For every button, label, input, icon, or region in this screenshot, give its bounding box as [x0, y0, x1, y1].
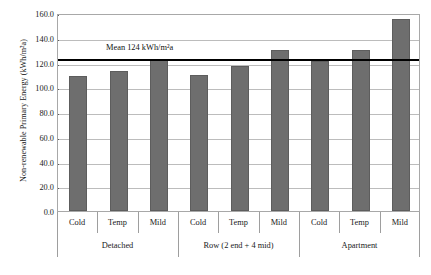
category-label: Mild [138, 212, 178, 234]
group-separator [178, 212, 179, 257]
category-label: Temp [339, 212, 379, 234]
bar [231, 66, 249, 211]
mean-line-label: Mean 124 kWh/m²a [106, 43, 173, 52]
y-axis-tick-labels: 0.020.040.060.080.0100.0120.0140.0160.0 [18, 14, 54, 212]
category-separator [380, 212, 381, 233]
y-tick-mark [57, 89, 59, 90]
category-label: Mild [380, 212, 420, 234]
category-label: Cold [178, 212, 218, 234]
category-axis: ColdTempMildColdTempMildColdTempMild Det… [57, 212, 420, 258]
category-label: Temp [218, 212, 258, 234]
plot-area: Mean 124 kWh/m²a [57, 14, 420, 212]
y-tick-mark-minor [57, 27, 58, 28]
bar [271, 50, 289, 211]
category-label: Cold [57, 212, 97, 234]
y-tick-label: 100.0 [18, 84, 54, 93]
bar [311, 61, 329, 211]
gridline [58, 40, 419, 41]
category-separator [138, 212, 139, 233]
y-tick-mark [57, 164, 59, 165]
y-tick-label: 140.0 [18, 34, 54, 43]
group-separator [419, 212, 420, 257]
group-label: Row (2 end + 4 mid) [178, 234, 299, 258]
category-label-row: ColdTempMildColdTempMildColdTempMild [57, 212, 420, 234]
bar-chart: Non-renewable Primary Energy (kWh/m²a) 0… [0, 0, 431, 275]
bar [69, 76, 87, 211]
mean-line [58, 59, 419, 61]
y-tick-mark-minor [57, 102, 58, 103]
group-separator [299, 212, 300, 257]
y-tick-mark-minor [57, 201, 58, 202]
category-label: Mild [259, 212, 299, 234]
bar [190, 75, 208, 211]
y-tick-mark [57, 15, 59, 16]
group-label-row: DetachedRow (2 end + 4 mid)Apartment [57, 234, 420, 258]
bar [392, 19, 410, 211]
bar [110, 71, 128, 211]
y-tick-mark [57, 188, 59, 189]
y-tick-label: 0.0 [18, 208, 54, 217]
bar [352, 50, 370, 211]
y-tick-label: 160.0 [18, 10, 54, 19]
y-tick-mark [57, 65, 59, 66]
y-tick-mark [57, 139, 59, 140]
y-tick-label: 80.0 [18, 109, 54, 118]
y-tick-mark-minor [57, 52, 58, 53]
y-tick-mark-minor [57, 77, 58, 78]
group-label: Apartment [299, 234, 420, 258]
y-tick-mark [57, 40, 59, 41]
category-label: Cold [299, 212, 339, 234]
y-tick-mark [57, 114, 59, 115]
category-separator [218, 212, 219, 233]
category-separator [259, 212, 260, 233]
y-tick-label: 120.0 [18, 59, 54, 68]
bar [150, 60, 168, 211]
category-separator [339, 212, 340, 233]
category-label: Temp [97, 212, 137, 234]
y-tick-label: 40.0 [18, 158, 54, 167]
y-tick-mark-minor [57, 126, 58, 127]
group-separator [57, 212, 58, 257]
y-tick-label: 60.0 [18, 133, 54, 142]
group-label: Detached [57, 234, 178, 258]
category-separator [97, 212, 98, 233]
y-tick-label: 20.0 [18, 183, 54, 192]
y-tick-mark-minor [57, 176, 58, 177]
y-tick-mark-minor [57, 151, 58, 152]
